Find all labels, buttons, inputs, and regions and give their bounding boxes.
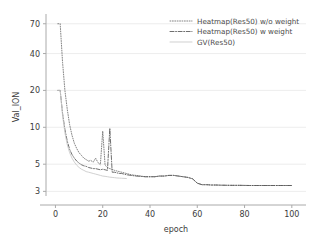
y-tick-label: 70 xyxy=(30,20,40,29)
y-axis-title: Val_ION xyxy=(12,92,21,123)
line-chart: 3510204070020406080100 Heatmap(Res50) w/… xyxy=(0,0,315,240)
y-tick-label: 5 xyxy=(35,160,40,169)
x-tick-label: 40 xyxy=(145,210,155,219)
legend-label: Heatmap(Res50) w weight xyxy=(197,27,292,36)
y-tick-label: 10 xyxy=(30,123,40,132)
y-tick-label: 40 xyxy=(30,50,40,59)
y-tick-label: 3 xyxy=(35,187,40,196)
legend-label: GV(Res50) xyxy=(197,38,235,47)
x-tick-label: 80 xyxy=(239,210,249,219)
x-tick-label: 20 xyxy=(98,210,108,219)
x-tick-label: 0 xyxy=(53,210,58,219)
x-tick-label: 60 xyxy=(192,210,202,219)
x-tick-label: 100 xyxy=(284,210,299,219)
y-tick-label: 20 xyxy=(30,86,40,95)
chart-figure: 3510204070020406080100 Heatmap(Res50) w/… xyxy=(0,0,315,240)
legend-label: Heatmap(Res50) w/o weight xyxy=(197,17,299,26)
x-axis-title: epoch xyxy=(164,225,188,234)
